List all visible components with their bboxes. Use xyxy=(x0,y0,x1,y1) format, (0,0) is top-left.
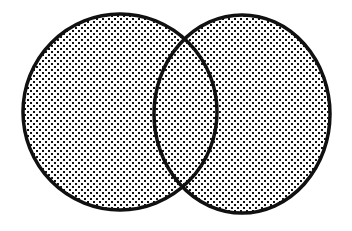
venn-svg xyxy=(0,0,352,231)
venn-diagram xyxy=(0,0,352,231)
